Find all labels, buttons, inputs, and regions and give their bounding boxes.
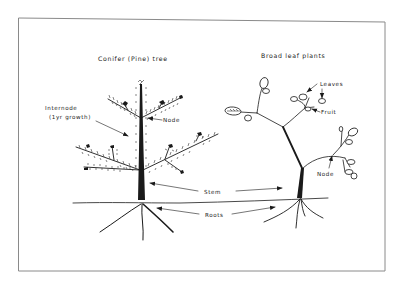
broadleaf-trunk — [297, 168, 304, 198]
arrow-stem-left — [150, 183, 198, 191]
label-fruit: Fruit — [321, 109, 337, 115]
arrow-node-conifer — [148, 118, 162, 120]
arrow-leaves-1 — [307, 84, 317, 92]
arrow-internode — [96, 121, 128, 136]
cone-cluster — [122, 95, 183, 106]
arrow-stem-right — [236, 188, 282, 191]
label-internode-growth: (1yr growth) — [49, 114, 91, 121]
arrow-node-broadleaf — [329, 156, 332, 168]
arrow-roots-left — [157, 208, 199, 214]
label-internode: Internode — [45, 105, 77, 111]
arrow-fruit — [312, 109, 320, 112]
broadleaf-plant-drawing — [225, 77, 359, 228]
label-node-conifer: Node — [163, 117, 180, 123]
ground-line — [73, 198, 328, 203]
conifer-trunk — [138, 84, 145, 200]
label-stem: Stem — [204, 189, 221, 195]
label-node-broadleaf: Node — [317, 171, 334, 177]
leaf-group — [225, 77, 359, 179]
title-broadleaf: Broad leaf plants — [261, 52, 326, 60]
arrow-roots-right — [232, 207, 275, 214]
plant-structure-diagram: Conifer (Pine) tree Broad leaf plants — [0, 0, 402, 287]
label-roots: Roots — [205, 212, 224, 218]
label-leaves: Leaves — [320, 81, 343, 87]
figure-frame — [19, 18, 386, 271]
conifer-tree-drawing — [76, 80, 218, 240]
title-conifer: Conifer (Pine) tree — [98, 55, 168, 62]
